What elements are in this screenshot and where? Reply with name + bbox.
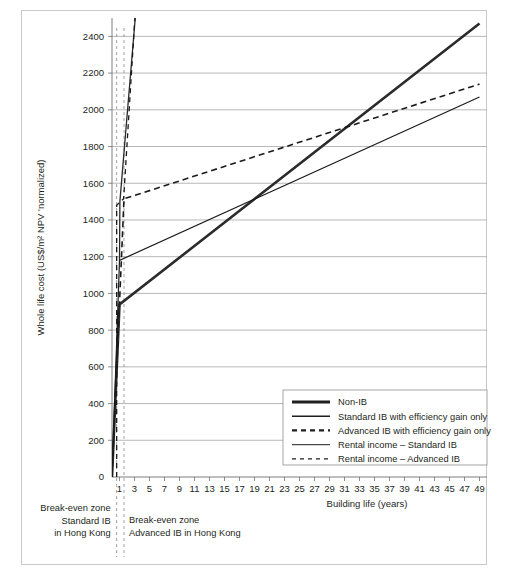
y-tick-label: 1000 xyxy=(83,288,104,299)
breakeven-standard-note-line: Break-even zone xyxy=(40,503,110,513)
y-tick-label: 1400 xyxy=(83,214,104,225)
x-tick-label: 25 xyxy=(294,483,305,494)
whole-life-cost-chart: 0200400600800100012001400160018002000220… xyxy=(0,0,508,582)
x-tick-label: 19 xyxy=(249,483,260,494)
chart-svg: 0200400600800100012001400160018002000220… xyxy=(0,0,508,582)
x-tick-label: 41 xyxy=(414,483,425,494)
x-tick-label: 9 xyxy=(177,483,182,494)
x-tick-label: 1 xyxy=(117,483,122,494)
x-tick-label: 37 xyxy=(384,483,395,494)
y-tick-label: 0 xyxy=(99,471,104,482)
y-tick-label: 1800 xyxy=(83,141,104,152)
y-tick-label: 2000 xyxy=(83,104,104,115)
legend-label: Rental income – Advanced IB xyxy=(338,454,460,464)
x-tick-label: 29 xyxy=(324,483,335,494)
y-tick-label: 2200 xyxy=(83,67,104,78)
x-tick-label: 21 xyxy=(264,483,275,494)
x-tick-label: 3 xyxy=(132,483,137,494)
legend-label: Rental income – Standard IB xyxy=(338,440,457,450)
x-tick-label: 43 xyxy=(429,483,440,494)
breakeven-standard-note-line: Standard IB xyxy=(62,516,111,526)
legend[interactable]: Non-IBStandard IB with efficiency gain o… xyxy=(283,390,491,465)
x-tick-label: 15 xyxy=(219,483,230,494)
x-tick-label: 17 xyxy=(234,483,245,494)
x-tick-label: 35 xyxy=(369,483,380,494)
x-axis-title: Building life (years) xyxy=(327,498,408,509)
x-tick-label: 31 xyxy=(339,483,350,494)
y-tick-label: 200 xyxy=(88,435,104,446)
y-tick-label: 1200 xyxy=(83,251,104,262)
annotations: Break-even zoneStandard IBin Hong KongBr… xyxy=(40,503,240,538)
x-tick-label: 13 xyxy=(204,483,215,494)
x-tick-label: 49 xyxy=(474,483,485,494)
legend-label: Non-IB xyxy=(338,397,367,407)
breakeven-advanced-note-line: Break-even zone xyxy=(129,515,199,525)
x-tick-label: 5 xyxy=(147,483,152,494)
x-axis: 1357911131517192123252729313335373941434… xyxy=(112,477,487,494)
y-tick-label: 1600 xyxy=(83,178,104,189)
y-tick-label: 400 xyxy=(88,398,104,409)
x-tick-label: 33 xyxy=(354,483,365,494)
legend-label: Standard IB with efficiency gain only xyxy=(338,412,488,422)
x-tick-label: 27 xyxy=(309,483,320,494)
x-tick-label: 45 xyxy=(444,483,455,494)
legend-label: Advanced IB with efficiency gain only xyxy=(338,426,491,436)
x-tick-label: 11 xyxy=(190,483,200,494)
x-tick-label: 23 xyxy=(279,483,290,494)
breakeven-advanced-note-line: Advanced IB in Hong Kong xyxy=(129,528,241,538)
y-axis-title: Whole life cost (US$/m² NPV 'normalized) xyxy=(35,159,46,335)
x-tick-label: 47 xyxy=(459,483,470,494)
y-tick-label: 800 xyxy=(88,325,104,336)
breakeven-standard-note-line: in Hong Kong xyxy=(54,528,110,538)
y-tick-label: 600 xyxy=(88,361,104,372)
x-tick-label: 7 xyxy=(162,483,167,494)
y-tick-label: 2400 xyxy=(83,31,104,42)
x-tick-label: 39 xyxy=(399,483,410,494)
y-axis: 0200400600800100012001400160018002000220… xyxy=(83,18,112,482)
